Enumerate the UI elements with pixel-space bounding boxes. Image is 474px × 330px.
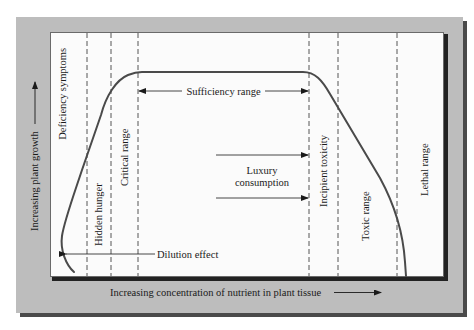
dilution-effect-label: Dilution effect <box>157 249 218 260</box>
sufficiency-range-annotation: Sufficiency range <box>139 86 308 97</box>
zone-label-deficiency-symptoms: Deficiency symptoms <box>57 48 68 140</box>
luxury-consumption-label-line1: Luxury <box>247 165 279 176</box>
zone-label-toxic-range: Toxic range <box>360 191 371 241</box>
growth-curve-diagram: Sufficiency range Luxury consumption Dil… <box>0 0 474 330</box>
y-axis-label: Increasing plant growth <box>29 131 40 231</box>
luxury-consumption-annotation: Luxury consumption <box>216 155 308 198</box>
luxury-consumption-label-line2: consumption <box>235 177 290 188</box>
zone-label-lethal-range: Lethal range <box>419 143 430 196</box>
zone-label-critical-range: Critical range <box>119 128 130 186</box>
zone-boundaries <box>87 33 397 276</box>
zone-label-incipient-toxicity: Incipient toxicity <box>318 134 329 207</box>
x-axis: Increasing concentration of nutrient in … <box>110 287 381 298</box>
zone-label-hidden-hunger: Hidden hunger <box>93 183 104 246</box>
x-axis-label: Increasing concentration of nutrient in … <box>110 287 321 298</box>
dilution-effect-annotation: Dilution effect <box>66 249 218 260</box>
growth-curve <box>62 72 406 276</box>
sufficiency-range-label: Sufficiency range <box>186 86 260 97</box>
y-axis: Increasing plant growth <box>29 82 40 231</box>
